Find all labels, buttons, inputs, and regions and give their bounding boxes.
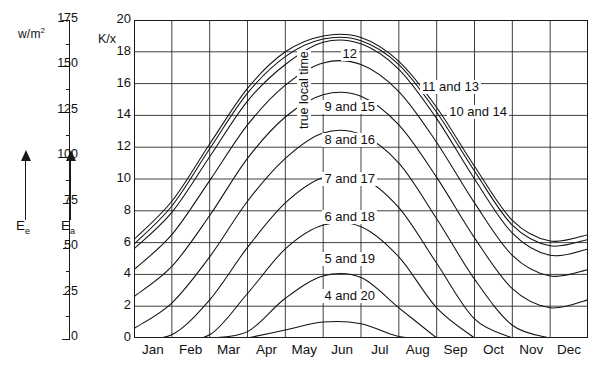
Ea-label: Ea bbox=[61, 218, 75, 236]
month-label-apr: Apr bbox=[256, 342, 277, 357]
left-axis-minor-tick bbox=[66, 180, 70, 181]
month-label-feb: Feb bbox=[179, 342, 202, 357]
month-label-jan: Jan bbox=[142, 342, 164, 357]
curve-label-7-and-17: 7 and 17 bbox=[322, 172, 377, 186]
curve-label-12: 12 bbox=[341, 47, 359, 61]
month-label-sep: Sep bbox=[444, 342, 468, 357]
kx-axis-tick-6: 6 bbox=[124, 234, 131, 249]
curve-label-8-and-16: 8 and 16 bbox=[322, 133, 377, 147]
kx-axis-tick-20: 20 bbox=[117, 11, 131, 26]
chart-root: w/m2 1751501251007550250 Ee K/x 20181614… bbox=[0, 0, 614, 377]
kx-axis-tick-4: 4 bbox=[124, 265, 131, 280]
curve-label-11-and-13: 11 and 13 bbox=[420, 80, 481, 94]
left-axis-unit-label: w/m2 bbox=[18, 26, 45, 41]
kx-axis-tick-8: 8 bbox=[124, 202, 131, 217]
left-axis-tick-125: 125 bbox=[57, 102, 78, 116]
curve-label-10-and-14: 10 and 14 bbox=[447, 105, 509, 119]
left-axis-tick-0: 0 bbox=[71, 329, 78, 343]
curve-label-6-and-18: 6 and 18 bbox=[322, 210, 377, 224]
kx-axis-tick-10: 10 bbox=[117, 170, 131, 185]
x-axis-month-labels: JanFebMarAprMayJunJulAugSepOctNovDec bbox=[134, 342, 588, 368]
plot-area: 1211 and 1310 and 149 and 158 and 167 an… bbox=[134, 20, 588, 338]
month-label-nov: Nov bbox=[519, 342, 543, 357]
kx-axis-tick-16: 16 bbox=[117, 75, 131, 90]
left-axis-tick-50: 50 bbox=[64, 238, 78, 252]
left-axis-minor-tick bbox=[66, 316, 70, 317]
left-axis-tick-175: 175 bbox=[57, 11, 78, 25]
left-axis-minor-tick bbox=[66, 271, 70, 272]
curve-label-4-and-20: 4 and 20 bbox=[322, 289, 377, 303]
month-label-may: May bbox=[291, 342, 317, 357]
true-local-time-label: true local time bbox=[297, 50, 311, 130]
month-label-mar: Mar bbox=[217, 342, 240, 357]
arrow-shaft bbox=[70, 158, 71, 220]
month-label-jun: Jun bbox=[331, 342, 353, 357]
kx-axis-tick-12: 12 bbox=[117, 138, 131, 153]
kx-axis-tick-2: 2 bbox=[124, 297, 131, 312]
curve-label-5-and-19: 5 and 19 bbox=[322, 252, 377, 266]
month-label-oct: Oct bbox=[483, 342, 504, 357]
curve-label-9-and-15: 9 and 15 bbox=[322, 100, 377, 114]
kx-axis: K/x 20181614121086420 bbox=[95, 0, 135, 377]
kx-axis-tick-14: 14 bbox=[117, 106, 131, 121]
left-axis-minor-tick bbox=[66, 44, 70, 45]
Ee-label: Ee bbox=[16, 218, 30, 236]
left-irradiance-axis: w/m2 1751501251007550250 Ee bbox=[0, 0, 105, 377]
month-label-dec: Dec bbox=[557, 342, 581, 357]
kx-axis-unit-label: K/x bbox=[98, 32, 116, 46]
left-axis-tick-150: 150 bbox=[57, 56, 78, 70]
arrow-shaft bbox=[25, 158, 26, 220]
month-label-jul: Jul bbox=[371, 342, 388, 357]
left-axis-minor-tick bbox=[66, 89, 70, 90]
kx-axis-tick-18: 18 bbox=[117, 43, 131, 58]
month-label-aug: Aug bbox=[406, 342, 430, 357]
left-axis-minor-tick bbox=[66, 135, 70, 136]
left-axis-tick-25: 25 bbox=[64, 284, 78, 298]
kx-axis-tick-0: 0 bbox=[124, 329, 131, 344]
